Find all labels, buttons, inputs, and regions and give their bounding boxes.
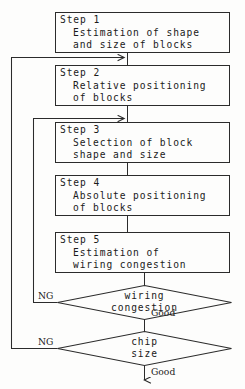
step5-box-outline <box>56 233 230 273</box>
feedback-wiring-ng-to-step2 <box>34 119 125 303</box>
decision-wiring-congestion-outline <box>58 286 232 320</box>
step3-box-outline <box>56 123 230 163</box>
flowchart-diagram: Step 1 Estimation of shape and size of b… <box>0 0 245 389</box>
step1-box-outline <box>56 13 230 53</box>
flowchart-vector-layer <box>0 0 245 389</box>
step4-box-outline <box>56 176 230 216</box>
step2-box-outline <box>56 66 230 106</box>
decision-chip-size-outline <box>58 332 232 366</box>
